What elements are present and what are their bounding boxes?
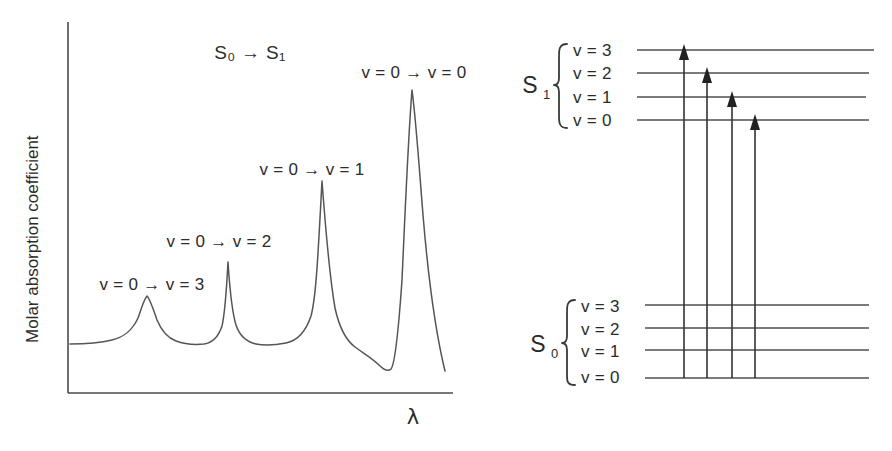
level-label-s0-v3: v = 3 [581, 297, 620, 316]
energy-level-diagram-panel: S 1 v = 3 v = 2 v = 1 v = 0 S 0 [460, 0, 892, 451]
state-group-s1: S 1 v = 3 v = 2 v = 1 v = 0 [522, 41, 874, 130]
level-label-s0-v0: v = 0 [581, 368, 620, 387]
y-axis-label: Molar absorption coefficient [23, 135, 42, 343]
transition-arrow-v0-to-v2 [702, 67, 712, 378]
peak-label-v3: v = 0 → v = 3 [99, 275, 204, 294]
level-label-s1-v3: v = 3 [573, 41, 612, 60]
transition-arrow-v0-to-v0 [750, 114, 760, 378]
transition-arrow-v0-to-v1 [727, 91, 737, 378]
spectrum-title: S₀ → S₁ [214, 42, 285, 63]
level-label-s0-v1: v = 1 [581, 342, 620, 361]
state-label-s0-symbol: S [530, 331, 545, 357]
state-group-s0: S 0 v = 3 v = 2 v = 1 v = 0 [530, 297, 869, 387]
absorption-spectrum-panel: Molar absorption coefficient λ S₀ → S₁ v… [0, 0, 460, 451]
level-label-s1-v2: v = 2 [573, 64, 612, 83]
level-label-s1-v1: v = 1 [573, 88, 612, 107]
state-label-s0-subscript: 0 [551, 346, 558, 361]
brace-s0 [562, 300, 575, 385]
figure-root: Molar absorption coefficient λ S₀ → S₁ v… [0, 0, 892, 451]
level-label-s1-v0: v = 0 [573, 111, 612, 130]
peak-label-v0: v = 0 → v = 0 [361, 63, 466, 82]
level-label-s0-v2: v = 2 [581, 320, 620, 339]
peak-label-v2: v = 0 → v = 2 [166, 232, 271, 251]
brace-s1 [554, 44, 567, 128]
state-label-s1-symbol: S [522, 72, 537, 98]
absorption-curve [70, 90, 445, 371]
x-axis-label: λ [407, 405, 419, 429]
peak-label-v1: v = 0 → v = 1 [259, 160, 364, 179]
state-label-s1-subscript: 1 [543, 87, 550, 102]
